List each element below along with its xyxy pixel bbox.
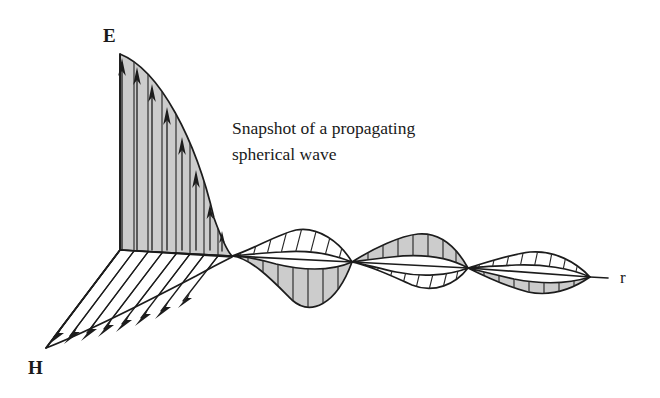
spherical-wave-diagram: E H r Snapshot of a propagating spherica… [0,0,660,398]
figure-caption: Snapshot of a propagating spherical wave [232,118,415,164]
e-lobe-1-shape [232,256,352,307]
caption-line-2: spherical wave [232,144,337,164]
axis-label-h: H [28,357,43,378]
figure-container: E H r Snapshot of a propagating spherica… [0,0,660,398]
h-lobe-2-shape [352,262,468,288]
axis-label-e: E [103,25,116,46]
axis-label-r: r [620,268,626,287]
caption-line-1: Snapshot of a propagating [232,118,415,138]
